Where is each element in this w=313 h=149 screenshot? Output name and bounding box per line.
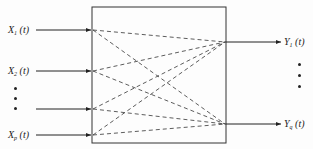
ellipsis-dot bbox=[298, 74, 301, 77]
ellipsis-dot bbox=[14, 107, 17, 110]
input-arrows bbox=[36, 30, 91, 135]
input-label-x1: X1 (t) bbox=[8, 25, 29, 38]
output-label-y1: Y1 (t) bbox=[284, 37, 305, 50]
ellipsis-dot bbox=[14, 97, 17, 100]
output-arrows bbox=[225, 42, 281, 124]
ellipsis-dot bbox=[298, 63, 301, 66]
diagram-graphics bbox=[0, 0, 313, 149]
ellipsis-dot bbox=[14, 87, 17, 90]
system-box bbox=[92, 7, 226, 143]
input-label-x2: X2 (t) bbox=[8, 66, 29, 79]
output-label-yq: Yq (t) bbox=[284, 119, 305, 132]
dashed-connections bbox=[93, 30, 225, 135]
mimo-diagram: X1 (t) X2 (t) Xp (t) Y1 (t) Yq (t) bbox=[0, 0, 313, 149]
input-label-xp: Xp (t) bbox=[8, 130, 29, 143]
ellipsis-dot bbox=[298, 85, 301, 88]
